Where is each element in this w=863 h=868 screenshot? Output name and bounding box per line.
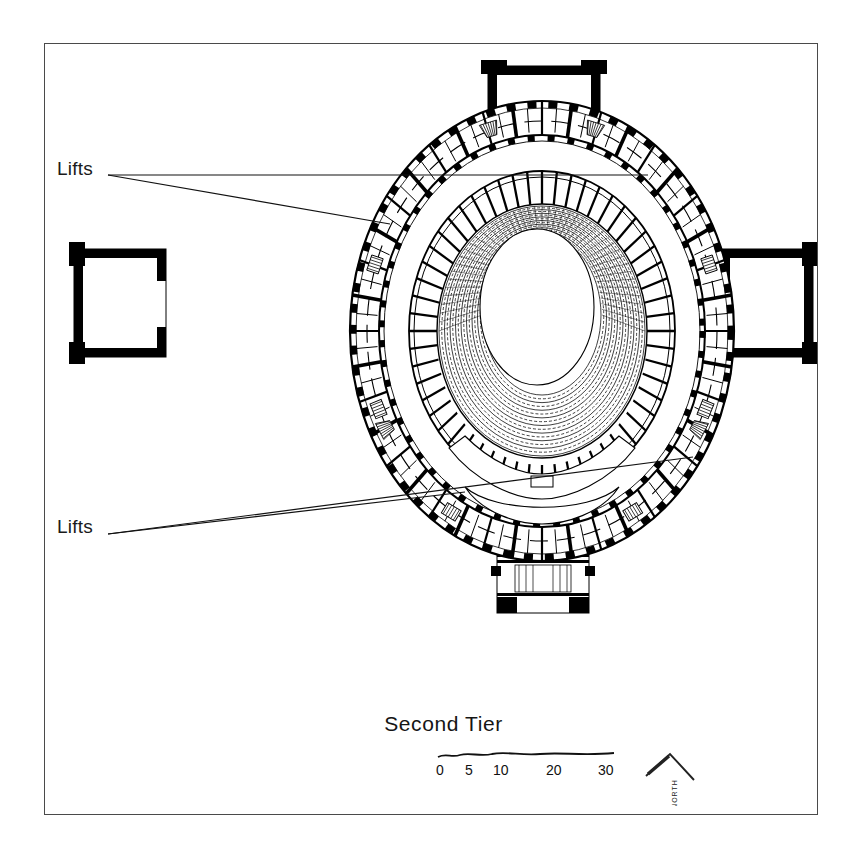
- scale-tick-0: 0: [436, 762, 444, 778]
- lifts-label-top: Lifts: [57, 158, 93, 180]
- east-pavilion: [721, 242, 817, 364]
- plan-title-text: Second Tier: [360, 712, 503, 735]
- north-chevron-icon: NORTH: [640, 744, 710, 806]
- plan-title: Second Tier: [0, 712, 863, 736]
- leader-lifts-top-b: [108, 175, 390, 224]
- floor-plan-svg: [45, 44, 817, 814]
- scale-tick-5: 5: [465, 762, 473, 778]
- scale-bar: 0 5 10 20 30: [436, 748, 616, 784]
- scale-tick-10: 10: [493, 762, 509, 778]
- drawing-frame: [44, 43, 818, 815]
- lifts-label-bottom: Lifts: [57, 516, 93, 538]
- scale-tick-20: 20: [546, 762, 562, 778]
- arena-void: [480, 229, 594, 385]
- leader-lifts-bot-b: [108, 492, 465, 534]
- north-label: NORTH: [671, 779, 678, 806]
- scale-tick-30: 30: [598, 762, 614, 778]
- drawing-page: Lifts Lifts Second Tier 0 5 10 20 30 NOR…: [0, 0, 863, 868]
- west-pavilion: [69, 242, 166, 364]
- scale-bar-line: [436, 748, 616, 762]
- north-arrow: NORTH: [640, 744, 710, 806]
- scale-tick-labels: 0 5 10 20 30: [436, 762, 616, 784]
